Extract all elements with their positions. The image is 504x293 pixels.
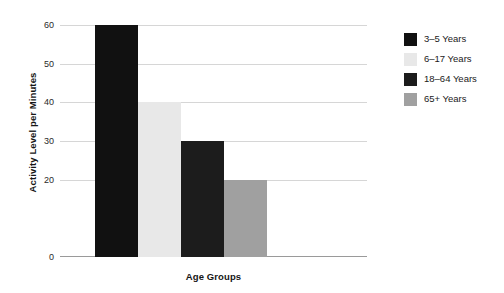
y-tick-label-60: 60 <box>10 21 54 30</box>
legend-swatch-icon-3-5-years <box>404 33 417 46</box>
y-tick-label-50: 50 <box>10 60 54 69</box>
y-tick-label-30: 30 <box>10 137 54 146</box>
legend-item-65-plus-years: 65+ Years <box>404 89 504 109</box>
legend-label-6-17-years: 6–17 Years <box>424 54 472 64</box>
y-tick-label-0: 0 <box>10 253 54 262</box>
legend-label-18-64-years: 18–64 Years <box>424 74 477 84</box>
legend-swatch-icon-18-64-years <box>404 73 417 86</box>
bar-chart: Activity Level per Minutes 60 50 40 30 2… <box>0 0 504 293</box>
y-axis-tick-labels: 60 50 40 30 20 0 <box>10 25 54 257</box>
x-axis-title: Age Groups <box>60 271 367 282</box>
bars-layer <box>60 25 367 257</box>
bar-6-17-years <box>138 102 181 257</box>
legend-item-3-5-years: 3–5 Years <box>404 29 504 49</box>
legend-item-6-17-years: 6–17 Years <box>404 49 504 69</box>
plot-area <box>60 25 367 257</box>
legend-swatch-icon-6-17-years <box>404 53 417 66</box>
y-tick-label-20: 20 <box>10 176 54 185</box>
legend-item-18-64-years: 18–64 Years <box>404 69 504 89</box>
legend-swatch-icon-65-plus-years <box>404 93 417 106</box>
bar-65-plus-years <box>224 180 267 257</box>
legend-label-3-5-years: 3–5 Years <box>424 34 466 44</box>
bar-3-5-years <box>95 25 138 257</box>
bar-18-64-years <box>181 141 224 257</box>
chart-legend: 3–5 Years 6–17 Years 18–64 Years 65+ Yea… <box>404 29 504 109</box>
legend-label-65-plus-years: 65+ Years <box>424 94 467 104</box>
y-tick-label-40: 40 <box>10 98 54 107</box>
